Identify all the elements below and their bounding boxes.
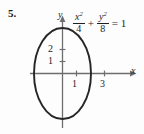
- y-tick-label-1: 1: [48, 55, 53, 66]
- plus-operator: +: [88, 18, 94, 29]
- equals-operator: =: [112, 18, 118, 29]
- exponent-2: 2: [103, 10, 106, 17]
- x-axis-label: x: [131, 65, 135, 76]
- fraction-numerator: y2: [97, 12, 109, 23]
- equation-right-hand-side: 1: [121, 18, 127, 29]
- exponent-2: 2: [79, 10, 82, 17]
- y-axis-label: y: [58, 9, 62, 20]
- x-tick-label-1: 1: [72, 78, 77, 89]
- fraction-numerator: x2: [73, 12, 85, 23]
- ellipse-equation: x2 4 + y2 8 = 1: [72, 12, 126, 34]
- fraction-denominator: 4: [74, 24, 83, 35]
- x-tick-label-3: 3: [100, 78, 105, 89]
- fraction-denominator: 8: [98, 24, 107, 35]
- fraction-y-squared-over-8: y2 8: [97, 12, 109, 34]
- y-tick-label-2: 2: [48, 43, 53, 54]
- figure-container: 5. y x 2 1 1 3 x2 4 + y2 8: [0, 0, 144, 134]
- fraction-x-squared-over-4: x2 4: [73, 12, 85, 34]
